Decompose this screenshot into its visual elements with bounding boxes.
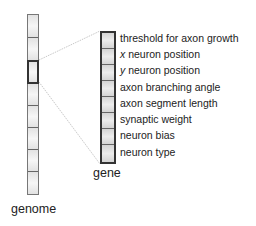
gene-cell bbox=[102, 97, 114, 113]
gene-cell bbox=[102, 65, 114, 81]
gene-field-label: neuron type bbox=[120, 146, 175, 158]
gene-cell bbox=[102, 81, 114, 97]
gene-cell bbox=[102, 33, 114, 49]
genome-cell bbox=[28, 150, 38, 172]
gene-field-label: axon segment length bbox=[120, 97, 217, 109]
gene-field-label: axon branching angle bbox=[120, 81, 220, 93]
gene-caption: gene bbox=[93, 166, 121, 180]
gene-field-label: neuron bias bbox=[120, 129, 175, 141]
gene-cell bbox=[102, 113, 114, 129]
gene-field-label: threshold for axon growth bbox=[120, 32, 238, 44]
gene-field-label: y neuron position bbox=[120, 64, 200, 76]
genome-cell-highlighted bbox=[27, 60, 39, 84]
gene-cell bbox=[102, 129, 114, 145]
gene-cell bbox=[102, 49, 114, 65]
genome-cell bbox=[28, 128, 38, 150]
genome-cell bbox=[28, 15, 38, 38]
gene-field-label: x neuron position bbox=[120, 48, 200, 60]
genome-cell bbox=[28, 106, 38, 128]
genome-caption: genome bbox=[11, 202, 56, 216]
genome-column bbox=[27, 14, 39, 195]
gene-cell bbox=[102, 145, 114, 162]
gene-field-label: synaptic weight bbox=[120, 113, 192, 125]
gene-column bbox=[100, 31, 116, 164]
genome-cell bbox=[28, 38, 38, 61]
genome-cell bbox=[28, 172, 38, 194]
genome-cell bbox=[28, 84, 38, 106]
